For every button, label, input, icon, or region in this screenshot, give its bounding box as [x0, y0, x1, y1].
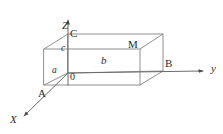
- vertex-label-c: C: [70, 28, 77, 39]
- box-back-face-edges: [68, 34, 163, 73]
- box-depth-edge-top-right: [140, 34, 163, 49]
- diagram-canvas: [0, 0, 223, 134]
- y-axis-label: y: [211, 63, 216, 74]
- origin-label: 0: [70, 72, 75, 82]
- box-front-face-edges: [44, 49, 140, 85]
- box-depth-edge-bottom-right: [140, 71, 163, 85]
- vertex-label-b: B: [165, 58, 172, 69]
- vertex-label-m: M: [128, 39, 138, 50]
- edge-label-c: c: [61, 44, 65, 54]
- x-axis-label: X: [10, 114, 17, 125]
- edge-label-b: b: [101, 55, 107, 66]
- z-axis-label: Z: [62, 20, 68, 31]
- x-axis-line: [24, 73, 68, 116]
- edge-label-a: a: [52, 66, 57, 76]
- coordinate-box-diagram: Z C c M b B y a 0 A X: [0, 0, 223, 134]
- vertex-label-a: A: [38, 88, 46, 99]
